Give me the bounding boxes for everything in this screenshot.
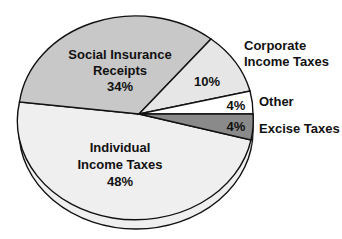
label-excise: Excise Taxes <box>259 121 340 136</box>
label-corporate-line1: Corporate <box>244 38 306 53</box>
label-other: Other <box>259 94 294 109</box>
label-social-insurance-line2: Receipts <box>93 63 147 78</box>
pie-chart: Social Insurance Receipts 34% Individual… <box>0 0 342 239</box>
label-individual-line1: Individual <box>90 140 151 155</box>
label-individual-line2: Income Taxes <box>77 157 162 172</box>
value-social-insurance: 34% <box>107 79 133 94</box>
value-other: 4% <box>227 98 246 113</box>
value-individual: 48% <box>107 174 133 189</box>
label-social-insurance-line1: Social Insurance <box>68 47 171 62</box>
value-excise: 4% <box>227 119 246 134</box>
label-corporate-line2: Income Taxes <box>244 54 329 69</box>
value-corporate: 10% <box>194 74 220 89</box>
